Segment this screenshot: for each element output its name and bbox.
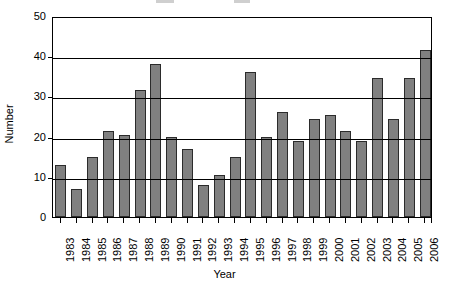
- y-tick-label-10: 10: [22, 172, 46, 183]
- x-tick-mark-1985: [92, 218, 93, 223]
- bar-1983: [55, 165, 66, 217]
- bar-1985: [87, 157, 98, 217]
- bar-1989: [150, 64, 161, 217]
- x-tick-mark-1991: [187, 218, 188, 223]
- y-tick-mark-20: [48, 138, 52, 139]
- y-tick-label-50: 50: [22, 11, 46, 22]
- gridline-30: [53, 98, 431, 99]
- y-axis-title-text: Number: [3, 79, 15, 169]
- x-tick-mark-2001: [345, 218, 346, 223]
- x-tick-label-2005: 2005: [413, 238, 424, 262]
- bar-chart-figure: Number 01020304050 198319841985198619871…: [0, 0, 449, 288]
- y-tick-label-0: 0: [22, 212, 46, 223]
- x-tick-label-1986: 1986: [112, 238, 123, 262]
- y-tick-mark-10: [48, 178, 52, 179]
- x-tick-mark-1995: [250, 218, 251, 223]
- y-tick-mark-30: [48, 97, 52, 98]
- bar-1993: [214, 175, 225, 217]
- x-tick-mark-1990: [171, 218, 172, 223]
- x-tick-mark-1994: [234, 218, 235, 223]
- x-tick-mark-2005: [408, 218, 409, 223]
- bar-1991: [182, 149, 193, 217]
- x-tick-label-1990: 1990: [176, 238, 187, 262]
- bar-1988: [135, 90, 146, 217]
- x-tick-label-1988: 1988: [144, 238, 155, 262]
- x-tick-label-1998: 1998: [302, 238, 313, 262]
- x-axis-title: Year: [0, 268, 449, 280]
- x-tick-label-1997: 1997: [287, 238, 298, 262]
- x-tick-mark-1988: [139, 218, 140, 223]
- x-tick-label-1996: 1996: [271, 238, 282, 262]
- x-tick-mark-end: [431, 218, 432, 223]
- gridline-20: [53, 139, 431, 140]
- bar-1999: [309, 119, 320, 217]
- x-tick-label-1984: 1984: [81, 238, 92, 262]
- gridline-10: [53, 179, 431, 180]
- bar-2005: [404, 78, 415, 217]
- bar-1994: [230, 157, 241, 217]
- x-tick-label-1983: 1983: [65, 238, 76, 262]
- x-tick-label-2004: 2004: [397, 238, 408, 262]
- cropped-title-remnant: [150, 0, 300, 3]
- bar-1986: [103, 131, 114, 217]
- x-tick-label-2000: 2000: [334, 238, 345, 262]
- x-tick-label-1987: 1987: [128, 238, 139, 262]
- x-tick-label-2006: 2006: [429, 238, 440, 262]
- x-tick-mark-1997: [282, 218, 283, 223]
- x-tick-mark-1984: [76, 218, 77, 223]
- x-tick-mark-2006: [424, 218, 425, 223]
- x-tick-label-1993: 1993: [223, 238, 234, 262]
- y-tick-mark-40: [48, 57, 52, 58]
- bar-2006: [420, 50, 431, 217]
- bar-1997: [277, 112, 288, 217]
- x-tick-label-1985: 1985: [97, 238, 108, 262]
- bar-1996: [261, 137, 272, 217]
- bar-series: [53, 18, 431, 217]
- x-tick-mark-2004: [392, 218, 393, 223]
- x-tick-label-1995: 1995: [255, 238, 266, 262]
- x-tick-label-1994: 1994: [239, 238, 250, 262]
- y-axis-title: Number: [2, 80, 16, 170]
- x-tick-label-2003: 2003: [382, 238, 393, 262]
- x-tick-mark-1986: [107, 218, 108, 223]
- bar-1990: [166, 137, 177, 217]
- y-tick-label-40: 40: [22, 51, 46, 62]
- y-tick-label-30: 30: [22, 91, 46, 102]
- bar-1992: [198, 185, 209, 217]
- gridline-40: [53, 58, 431, 59]
- x-tick-mark-1989: [155, 218, 156, 223]
- title-remnant-mark-2: [234, 0, 250, 3]
- x-tick-mark-1998: [297, 218, 298, 223]
- bar-2000: [325, 115, 336, 218]
- x-tick-label-2002: 2002: [366, 238, 377, 262]
- bar-1995: [245, 72, 256, 217]
- bar-2004: [388, 119, 399, 217]
- x-tick-label-1992: 1992: [207, 238, 218, 262]
- title-remnant-mark-1: [156, 0, 174, 3]
- x-tick-label-1989: 1989: [160, 238, 171, 262]
- x-tick-mark-1987: [123, 218, 124, 223]
- y-tick-label-20: 20: [22, 132, 46, 143]
- x-tick-mark-1993: [218, 218, 219, 223]
- bar-2003: [372, 78, 383, 217]
- x-tick-mark-2002: [361, 218, 362, 223]
- bar-1987: [119, 135, 130, 217]
- x-tick-mark-1992: [202, 218, 203, 223]
- x-tick-label-1999: 1999: [318, 238, 329, 262]
- bar-2001: [340, 131, 351, 217]
- x-tick-mark-2003: [377, 218, 378, 223]
- bar-1984: [71, 189, 82, 217]
- y-axis-tick-labels: 01020304050: [18, 0, 46, 288]
- x-tick-label-1991: 1991: [192, 238, 203, 262]
- plot-area: [52, 17, 432, 218]
- x-tick-mark-1996: [266, 218, 267, 223]
- x-tick-mark-1999: [313, 218, 314, 223]
- x-tick-mark-1983: [60, 218, 61, 223]
- x-tick-label-2001: 2001: [350, 238, 361, 262]
- x-tick-mark-2000: [329, 218, 330, 223]
